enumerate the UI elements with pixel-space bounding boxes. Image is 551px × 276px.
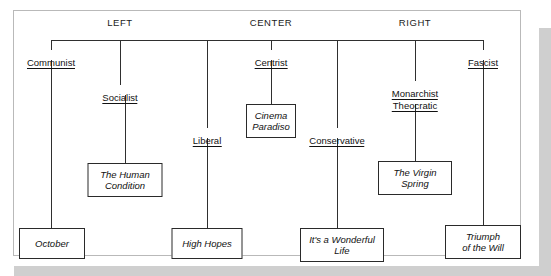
film-title-the-human-condition: The HumanCondition	[100, 169, 150, 192]
node-label-conservative: Conservative	[309, 135, 364, 147]
film-box-cinema-paradiso: CinemaParadiso	[246, 104, 296, 138]
film-title-line: Triumph	[462, 231, 504, 243]
film-box-its-a-wonderful-life: It's a WonderfulLife	[300, 228, 384, 262]
connector-socialist-to-the-human-condition	[125, 95, 126, 163]
node-label-socialist: Socialist	[102, 92, 137, 104]
film-title-cinema-paradiso: CinemaParadiso	[252, 110, 290, 133]
connector-bus-to-monarchist	[415, 40, 416, 81]
node-label-fascist: Fascist	[468, 57, 498, 69]
film-box-triumph-of-the-will: Triumphof the Will	[445, 225, 521, 259]
node-label-monarchist: MonarchistTheocratic	[392, 88, 438, 112]
film-title-line: Spring	[393, 178, 436, 190]
node-label-monarchist-line1: Monarchist	[392, 88, 438, 100]
film-title-triumph-of-the-will: Triumphof the Will	[462, 231, 504, 254]
connector-bus-to-fascist	[483, 40, 484, 50]
connector-bus-to-centrist	[271, 40, 272, 50]
film-title-line: Condition	[100, 180, 150, 192]
film-title-october: October	[35, 238, 69, 250]
film-title-line: The Virgin	[393, 167, 436, 179]
film-title-line: October	[35, 238, 69, 250]
film-box-the-human-condition: The HumanCondition	[88, 163, 163, 197]
connector-liberal-to-high-hopes	[207, 138, 208, 228]
film-title-the-virgin-spring: The VirginSpring	[393, 167, 436, 190]
film-box-the-virgin-spring: The VirginSpring	[378, 161, 452, 195]
node-label-monarchist-line2: Theocratic	[392, 100, 438, 112]
connector-fascist-to-triumph-of-the-will	[483, 60, 484, 225]
connector-conservative-to-its-a-wonderful-life	[337, 138, 338, 228]
film-title-line: The Human	[100, 169, 150, 181]
film-title-high-hopes: High Hopes	[182, 238, 232, 250]
film-title-line: of the Will	[462, 242, 504, 254]
film-title-line: High Hopes	[182, 238, 232, 250]
connector-bus-to-socialist	[120, 40, 121, 85]
film-title-line: It's a Wonderful	[309, 234, 375, 246]
connector-bus-to-liberal	[207, 40, 208, 128]
film-title-its-a-wonderful-life: It's a WonderfulLife	[309, 234, 375, 257]
spectrum-bus	[51, 40, 483, 41]
connector-bus-to-communist	[51, 40, 52, 50]
figure-canvas: LEFTCENTERRIGHTCommunistSocialistLiberal…	[0, 0, 551, 276]
connector-bus-to-conservative	[337, 40, 338, 128]
film-title-line: Life	[309, 245, 375, 257]
node-label-communist: Communist	[27, 57, 75, 69]
connector-communist-to-october	[51, 60, 52, 228]
film-box-high-hopes: High Hopes	[172, 228, 243, 259]
column-header-center: CENTER	[250, 17, 292, 28]
column-header-left: LEFT	[107, 17, 132, 28]
column-header-right: RIGHT	[399, 17, 431, 28]
film-title-line: Paradiso	[252, 121, 290, 133]
film-title-line: Cinema	[252, 110, 290, 122]
node-label-centrist: Centrist	[255, 57, 288, 69]
node-label-liberal: Liberal	[193, 135, 222, 147]
film-box-october: October	[19, 228, 85, 259]
connector-monarchist-to-the-virgin-spring	[415, 104, 416, 161]
